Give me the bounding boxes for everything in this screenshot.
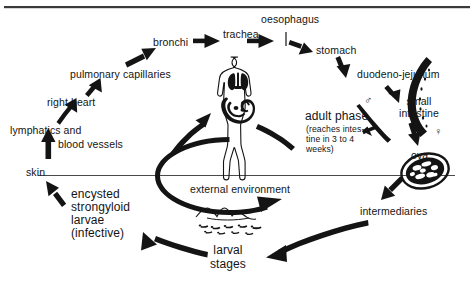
free-living-larvae [199,225,262,236]
label-intermediaries: intermediaries [360,205,427,217]
human-body-figure [218,57,256,180]
arrow-right-heart-to-pulmonary [85,78,102,97]
label-larval-line1: larval [200,244,256,257]
label-right-heart: right heart [47,96,95,108]
label-pulmonary-capillaries: pulmonary capillaries [70,68,171,80]
top-rule [4,6,470,8]
label-larval-line2: stages [200,258,256,271]
label-external-environment: external environment [190,183,290,195]
label-encysted-line4: (infective) [71,227,124,240]
label-small-intestine-line1: small [397,95,441,107]
label-trachea: trachea [223,28,259,40]
label-small-intestine-line2: intestine [393,107,445,119]
arrow-intermediaries-to-larval [266,220,369,262]
label-oesophagus: oesophagus [261,13,319,25]
label-blood-vessels: blood vessels [58,138,123,150]
label-duodeno-jejunum: duodeno-jejunum [357,68,440,80]
arrow-stomach-to-duodeno [336,56,351,78]
label-adult-note-line3: weeks) [306,145,334,155]
label-bronchi: bronchi [153,36,188,48]
arrow-human-to-adult-phase [256,124,295,151]
arrow-oesophagus-to-stomach [289,40,314,55]
label-stomach: stomach [316,44,356,56]
arrow-ova-to-intermediaries [381,176,404,200]
label-ova: ova [411,149,428,161]
lungs-organ [228,73,248,91]
arrow-encysted-to-skin [46,181,66,207]
arrow-bronchi-to-trachea [193,34,220,48]
life-cycle-diagram: .ink{fill:#141414;} .stroke{stroke:#1414… [0,0,474,286]
label-lymphatics-and: lymphatics and [10,124,81,136]
arrow-cycle-to-human [171,113,211,155]
female-symbol-icon: ♀ [434,126,442,137]
label-adult-phase: adult phase [305,110,368,123]
arrow-pulmonary-to-bronchi [125,48,156,68]
male-symbol-icon: ♂ [364,95,372,106]
arrow-larval-to-encysted [141,232,208,258]
label-skin: skin [26,166,45,178]
